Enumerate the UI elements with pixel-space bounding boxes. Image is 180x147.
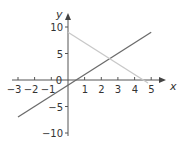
series-line-light bbox=[68, 32, 148, 83]
x-tick-label: 4 bbox=[132, 84, 138, 95]
y-axis bbox=[65, 13, 71, 136]
x-axis-label: x bbox=[169, 80, 177, 93]
y-tick-label: −10 bbox=[42, 128, 63, 139]
x-axis-arrow-icon bbox=[159, 77, 166, 83]
x-tick-label: −1 bbox=[41, 84, 56, 95]
x-tick-label: 2 bbox=[98, 84, 104, 95]
y-axis-label: y bbox=[55, 8, 63, 21]
y-tick-label: −5 bbox=[48, 102, 63, 113]
y-tick-label: 5 bbox=[57, 49, 63, 60]
origin-label: 0 bbox=[56, 75, 62, 86]
x-tick-label: −2 bbox=[24, 84, 39, 95]
y-axis-arrow-icon bbox=[65, 13, 71, 20]
x-tick-label: 3 bbox=[115, 84, 121, 95]
chart-plot: −3 −2 −1 1 2 3 4 5 0 10 5 −5 −10 x y bbox=[0, 0, 180, 147]
series-line-dark bbox=[18, 32, 151, 117]
x-tick-label: 1 bbox=[82, 84, 88, 95]
y-tick-label: 10 bbox=[50, 22, 63, 33]
x-tick-label: 5 bbox=[148, 84, 154, 95]
x-tick-label: −3 bbox=[7, 84, 22, 95]
